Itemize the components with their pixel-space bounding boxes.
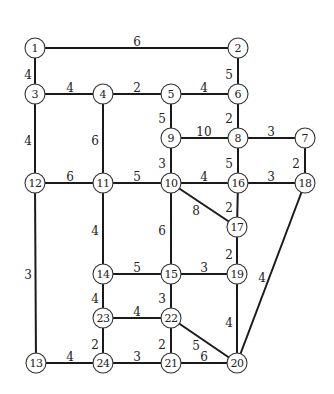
node-11: 11	[93, 173, 113, 193]
node-16: 16	[228, 173, 248, 193]
node-23: 23	[93, 308, 113, 328]
edge-weight-label: 2	[91, 338, 99, 352]
node-12: 12	[25, 173, 45, 193]
node-label: 15	[165, 268, 178, 281]
node-8: 8	[228, 128, 248, 148]
edge-weight-label: 4	[91, 224, 99, 238]
edge-weight-label: 6	[133, 35, 141, 49]
node-3: 3	[25, 84, 45, 104]
edge-weight-label: 2	[292, 157, 300, 171]
node-19: 19	[227, 264, 247, 284]
edge-weight-label: 3	[158, 292, 166, 306]
node-label: 11	[97, 177, 110, 190]
node-label: 21	[165, 357, 178, 370]
edge-weight-label: 4	[24, 134, 32, 148]
edge-12-13	[35, 183, 36, 363]
edge-weight-label: 4	[200, 81, 208, 95]
edge-weight-label: 2	[225, 112, 233, 126]
edge-weight-label: 5	[225, 157, 233, 171]
edge-weight-label: 5	[225, 68, 233, 82]
edge-weight-label: 4	[133, 305, 141, 319]
edge-weight-label: 8	[192, 204, 200, 218]
node-5: 5	[161, 84, 181, 104]
node-label: 24	[97, 357, 110, 370]
node-label: 19	[231, 268, 244, 281]
node-label: 8	[235, 132, 242, 145]
edge-weight-label: 4	[225, 316, 233, 330]
edge-weight-label: 10	[196, 125, 211, 139]
node-17: 17	[227, 217, 247, 237]
edge-weight-label: 3	[267, 125, 275, 139]
edge-weight-label: 3	[133, 350, 141, 364]
node-label: 3	[32, 88, 39, 101]
edge-weight-label: 6	[200, 350, 208, 364]
edge-weight-label: 6	[158, 224, 166, 238]
edge-weight-label: 4	[66, 81, 74, 95]
node-label: 7	[302, 132, 309, 145]
node-label: 5	[168, 88, 175, 101]
node-18: 18	[295, 173, 315, 193]
node-22: 22	[161, 308, 181, 328]
edge-weight-label: 2	[158, 338, 166, 352]
edge-weight-label: 5	[192, 339, 200, 353]
node-label: 13	[30, 357, 43, 370]
node-label: 6	[235, 88, 242, 101]
node-24: 24	[93, 353, 113, 373]
node-4: 4	[93, 84, 113, 104]
node-label: 9	[168, 132, 175, 145]
node-label: 10	[165, 177, 178, 190]
edge-weight-label: 2	[133, 81, 141, 95]
node-label: 23	[97, 312, 110, 325]
edge-weight-label: 2	[225, 248, 233, 262]
node-label: 4	[100, 88, 107, 101]
node-10: 10	[161, 173, 181, 193]
node-label: 2	[235, 42, 242, 55]
node-label: 12	[29, 177, 42, 190]
node-6: 6	[228, 84, 248, 104]
node-21: 21	[161, 353, 181, 373]
graph-diagram: 645424465210335265438234624534344225436 …	[0, 0, 334, 394]
node-15: 15	[161, 264, 181, 284]
edge-weight-label: 3	[158, 157, 166, 171]
node-1: 1	[25, 38, 45, 58]
node-9: 9	[161, 128, 181, 148]
node-2: 2	[228, 38, 248, 58]
edge-weight-label: 5	[133, 170, 141, 184]
edge-weight-label: 4	[24, 68, 32, 82]
edge-weight-label: 5	[133, 261, 141, 275]
node-label: 14	[97, 268, 110, 281]
edge-weight-label: 3	[200, 261, 208, 275]
edge-weight-label: 2	[225, 201, 233, 215]
edge-weight-label: 6	[91, 134, 99, 148]
edge-weight-label: 3	[24, 268, 32, 282]
node-20: 20	[227, 353, 247, 373]
edge-weight-label: 3	[267, 170, 275, 184]
node-13: 13	[26, 353, 46, 373]
edge-weight-label: 4	[200, 170, 208, 184]
edge-weight-label: 5	[158, 112, 166, 126]
node-label: 1	[32, 42, 39, 55]
node-label: 18	[299, 177, 312, 190]
edge-weight-label: 6	[66, 170, 74, 184]
edge-weight-label: 4	[91, 292, 99, 306]
node-7: 7	[295, 128, 315, 148]
edge-weight-label: 4	[258, 271, 266, 285]
node-14: 14	[93, 264, 113, 284]
node-label: 17	[231, 221, 244, 234]
node-label: 22	[165, 312, 178, 325]
node-label: 20	[231, 357, 244, 370]
node-label: 16	[232, 177, 245, 190]
edge-weight-label: 4	[66, 350, 74, 364]
